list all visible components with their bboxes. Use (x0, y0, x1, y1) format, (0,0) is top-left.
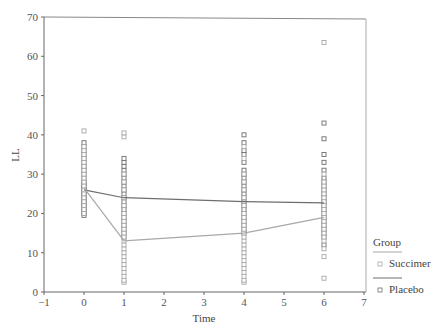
data-point (242, 251, 246, 255)
data-point (322, 239, 326, 243)
data-point (122, 227, 126, 231)
data-point (322, 184, 326, 188)
data-point (242, 223, 246, 227)
data-point (242, 188, 246, 192)
data-point (322, 137, 326, 141)
y-tick-label: 10 (27, 247, 39, 259)
data-point (242, 215, 246, 219)
data-point (242, 219, 246, 223)
data-point (322, 247, 326, 251)
data-point (122, 274, 126, 278)
data-point (322, 153, 326, 157)
x-tick-label: 2 (161, 296, 167, 308)
data-point (122, 251, 126, 255)
x-tick-label: 7 (361, 296, 367, 308)
data-point (122, 219, 126, 223)
data-point (122, 200, 126, 204)
x-tick-label: 3 (201, 296, 207, 308)
y-tick-label: 70 (27, 11, 39, 23)
data-point (82, 129, 86, 133)
data-point (242, 239, 246, 243)
data-point (322, 208, 326, 212)
x-tick-label: −1 (38, 296, 50, 308)
data-point (322, 188, 326, 192)
data-point (82, 172, 86, 176)
data-point (82, 153, 86, 157)
data-point (122, 247, 126, 251)
data-point (82, 192, 86, 196)
y-tick-label: 20 (27, 207, 39, 219)
data-point (242, 266, 246, 270)
data-point (242, 208, 246, 212)
data-point (242, 192, 246, 196)
data-point (242, 247, 246, 251)
axes: 010203040506070−101234567 (27, 11, 367, 308)
data-point (242, 196, 246, 200)
data-point (242, 255, 246, 259)
data-point (242, 176, 246, 180)
data-point (122, 215, 126, 219)
mean-line-succimer (84, 188, 324, 241)
data-point (122, 204, 126, 208)
legend-label-placebo: Placebo (389, 283, 424, 295)
data-point (82, 200, 86, 204)
data-point (322, 180, 326, 184)
data-point (82, 211, 86, 215)
data-points (82, 41, 326, 285)
data-point (122, 263, 126, 267)
data-point (242, 243, 246, 247)
data-point (122, 188, 126, 192)
data-point (322, 231, 326, 235)
data-point (122, 160, 126, 164)
data-point (242, 172, 246, 176)
data-point (122, 168, 126, 172)
data-point (122, 184, 126, 188)
x-tick-label: 1 (121, 296, 127, 308)
data-point (242, 180, 246, 184)
plot-frame (44, 17, 366, 292)
data-point (122, 270, 126, 274)
legend-marker-placebo (378, 288, 382, 292)
data-point (242, 270, 246, 274)
data-point (322, 235, 326, 239)
data-point (242, 184, 246, 188)
data-point (82, 196, 86, 200)
data-point (322, 121, 326, 125)
data-point (122, 208, 126, 212)
data-point (242, 204, 246, 208)
data-point (122, 223, 126, 227)
data-point (122, 231, 126, 235)
data-point (122, 172, 126, 176)
data-point (322, 227, 326, 231)
data-point (322, 243, 326, 247)
data-point (322, 223, 326, 227)
data-point (82, 160, 86, 164)
data-point (242, 168, 246, 172)
data-point (322, 192, 326, 196)
data-point (122, 243, 126, 247)
data-point (242, 263, 246, 267)
data-point (122, 164, 126, 168)
data-point (242, 274, 246, 278)
x-tick-label: 4 (241, 296, 247, 308)
data-point (322, 172, 326, 176)
legend-label-succimer: Succimer (389, 257, 431, 269)
data-point (242, 141, 246, 145)
data-point (322, 160, 326, 164)
data-point (242, 235, 246, 239)
data-point (82, 156, 86, 160)
chart: 010203040506070−101234567 Time LL Group … (0, 0, 442, 333)
data-point (82, 164, 86, 168)
legend: Group Succimer Placebo (373, 236, 431, 295)
data-point (322, 276, 326, 280)
data-point (322, 176, 326, 180)
y-tick-label: 60 (27, 50, 39, 62)
data-point (122, 131, 126, 135)
data-point (242, 227, 246, 231)
data-point (122, 255, 126, 259)
x-tick-label: 0 (81, 296, 87, 308)
data-point (82, 176, 86, 180)
data-point (322, 41, 326, 45)
data-point (82, 204, 86, 208)
mean-lines (84, 188, 324, 241)
